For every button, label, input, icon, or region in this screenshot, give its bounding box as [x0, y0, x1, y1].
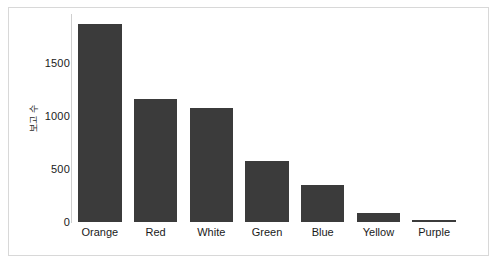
x-tick-label-yellow: Yellow	[351, 226, 407, 238]
x-tick-label-blue: Blue	[295, 226, 351, 238]
plot-area	[72, 14, 462, 222]
bar-white[interactable]	[190, 14, 233, 222]
bar-rect	[134, 99, 177, 222]
bar-rect	[78, 24, 121, 222]
y-tick-label: 1500	[45, 57, 70, 69]
y-tick-label: 1000	[45, 110, 70, 122]
bar-purple[interactable]	[412, 14, 455, 222]
bar-red[interactable]	[134, 14, 177, 222]
x-axis-tick-labels: OrangeRedWhiteGreenBlueYellowPurple	[72, 226, 462, 248]
x-tick-label-purple: Purple	[406, 226, 462, 238]
y-axis-tick-labels: 050010001500	[30, 14, 70, 222]
bar-rect	[245, 161, 288, 222]
bar-rect	[190, 108, 233, 222]
bar-green[interactable]	[245, 14, 288, 222]
y-tick-label: 0	[64, 216, 70, 228]
x-tick-label-white: White	[183, 226, 239, 238]
x-tick-label-red: Red	[128, 226, 184, 238]
bars-layer	[72, 14, 462, 222]
bar-blue[interactable]	[301, 14, 344, 222]
bar-rect	[412, 220, 455, 222]
bar-chart-figure: 보고 수 050010001500 OrangeRedWhiteGreenBlu…	[0, 0, 497, 264]
x-tick-label-orange: Orange	[72, 226, 128, 238]
bar-rect	[357, 213, 400, 222]
bar-orange[interactable]	[78, 14, 121, 222]
bar-rect	[301, 185, 344, 222]
bar-yellow[interactable]	[357, 14, 400, 222]
y-tick-label: 500	[51, 163, 70, 175]
x-tick-label-green: Green	[239, 226, 295, 238]
